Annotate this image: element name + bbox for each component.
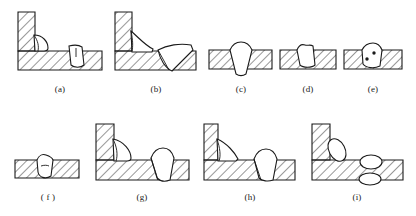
- panel-d-drawing: [280, 45, 336, 69]
- panel-f-drawing: [15, 155, 79, 178]
- panel-label-f: ( f ): [26, 192, 70, 202]
- panel-label-i: (i): [337, 192, 377, 202]
- panel-i-drawing: [312, 124, 403, 185]
- panel-e-drawing: [344, 43, 402, 69]
- panel-label-g: (g): [122, 192, 162, 202]
- panel-a-drawing: [18, 12, 102, 70]
- porosity-dot: [365, 57, 368, 60]
- panel-label-b: (b): [136, 84, 176, 94]
- panel-label-h: (h): [230, 192, 270, 202]
- welding-cross-section-figure: (a) (b) (c) (d) (e) ( f ) (g) (h) (i): [0, 0, 416, 216]
- panel-label-a: (a): [40, 84, 80, 94]
- panel-b-drawing: [115, 12, 196, 71]
- porosity-dot: [372, 51, 375, 54]
- panel-label-d: (d): [288, 84, 328, 94]
- panel-h-drawing: [204, 124, 295, 181]
- panel-label-c: (c): [221, 84, 261, 94]
- panel-label-e: (e): [353, 84, 393, 94]
- panel-c-drawing: [209, 42, 272, 76]
- figure-canvas: [0, 0, 416, 216]
- panel-g-drawing: [96, 124, 189, 181]
